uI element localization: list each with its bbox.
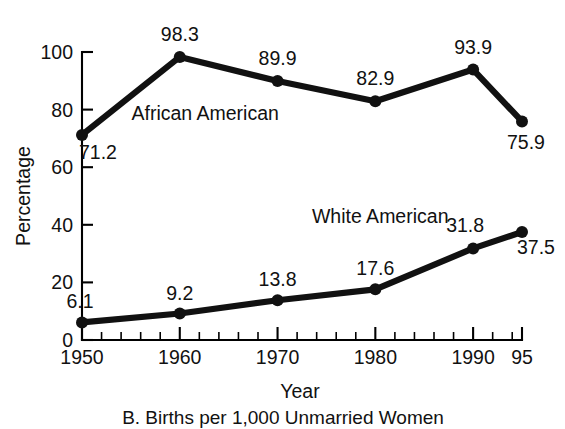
y-axis-title: Percentage bbox=[12, 146, 34, 246]
data-point-label: 17.6 bbox=[356, 257, 394, 279]
chart-series bbox=[76, 51, 528, 329]
data-point-label: 31.8 bbox=[446, 214, 484, 236]
data-point-label: 93.9 bbox=[454, 36, 492, 58]
data-point bbox=[369, 283, 381, 295]
data-point-label: 82.9 bbox=[356, 67, 394, 89]
data-point bbox=[369, 95, 381, 107]
x-axis-tick-label: 1970 bbox=[256, 346, 300, 368]
data-point bbox=[467, 64, 479, 76]
y-axis-tick-label: 60 bbox=[51, 156, 73, 178]
data-point-label: 9.2 bbox=[166, 282, 193, 304]
data-point bbox=[174, 51, 186, 63]
data-point-label: 37.5 bbox=[517, 236, 555, 258]
chart-figure: 0204060801001950196019701980199095 71.29… bbox=[0, 0, 565, 429]
figure-caption: B. Births per 1,000 Unmarried Women bbox=[122, 407, 444, 428]
data-point bbox=[76, 129, 88, 141]
data-point bbox=[516, 115, 528, 127]
x-axis-tick-label: 1950 bbox=[60, 346, 104, 368]
data-point bbox=[467, 242, 479, 254]
x-axis-tick-label: 1980 bbox=[354, 346, 398, 368]
chart-labels: 71.298.389.982.993.975.9African American… bbox=[66, 23, 555, 313]
data-point-label: 75.9 bbox=[507, 131, 545, 153]
data-point bbox=[76, 316, 88, 328]
data-point bbox=[272, 294, 284, 306]
data-point-label: 89.9 bbox=[259, 47, 297, 69]
data-point bbox=[272, 75, 284, 87]
y-axis-tick-label: 80 bbox=[51, 99, 73, 121]
line-chart-canvas: 0204060801001950196019701980199095 71.29… bbox=[0, 0, 565, 429]
series-line-1 bbox=[82, 232, 522, 322]
data-point-label: 13.8 bbox=[259, 268, 297, 290]
data-point-label: 6.1 bbox=[66, 290, 93, 312]
data-point bbox=[174, 308, 186, 320]
x-axis-title: Year bbox=[280, 380, 320, 402]
series-name-label: White American bbox=[312, 205, 449, 227]
x-axis-tick-label: 95 bbox=[511, 346, 533, 368]
x-axis-tick-label: 1960 bbox=[158, 346, 202, 368]
x-axis-tick-label: 1990 bbox=[451, 346, 495, 368]
data-point-label: 98.3 bbox=[161, 23, 199, 45]
y-axis-tick-label: 40 bbox=[51, 214, 73, 236]
y-axis-tick-label: 100 bbox=[40, 41, 73, 63]
data-point-label: 71.2 bbox=[79, 141, 117, 163]
series-name-label: African American bbox=[131, 102, 278, 124]
